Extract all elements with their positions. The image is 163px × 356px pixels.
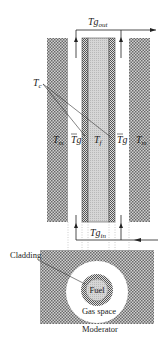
gas-space-label: Gas space: [82, 306, 116, 316]
arrow-left-icon: [134, 238, 141, 242]
arrow-right-icon: [150, 28, 156, 32]
tc-label: Tc: [33, 77, 43, 90]
tg-out-label: Tgout: [88, 16, 109, 29]
tg-in-label: Tgin: [90, 227, 107, 240]
cladding-left: [82, 38, 88, 222]
arrow-up-icon: [74, 223, 78, 228]
fuel-label: Fuel: [89, 285, 105, 295]
arrow-up-icon: [119, 223, 123, 228]
fuel-column: [88, 38, 109, 222]
moderator-right: [129, 38, 150, 222]
cladding-right: [109, 38, 115, 222]
arrow-up-icon: [119, 37, 123, 42]
cladding-label: Cladding: [10, 250, 42, 260]
fuel-channel-diagram: Tgout Tc Tm Tg Tf Tg Tm Tgin Fuel Gas sp…: [0, 0, 163, 356]
moderator-left: [47, 38, 68, 222]
tg-bar-left-label: Tg: [71, 134, 82, 145]
tg-bar-right-label: Tg: [117, 134, 128, 145]
arrow-up-icon: [74, 37, 78, 42]
